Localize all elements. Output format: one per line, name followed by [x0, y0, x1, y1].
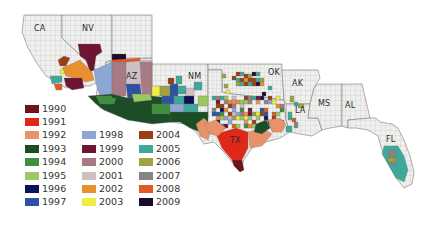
county-region-1996 — [260, 96, 264, 100]
county-region-1992 — [244, 120, 248, 124]
county-region-2006 — [248, 74, 252, 78]
state-label-ak: AK — [292, 79, 304, 88]
county-region-2005 — [212, 96, 216, 100]
legend-swatch — [82, 131, 96, 139]
county-region-1998 — [224, 116, 228, 120]
legend-label: 2007 — [156, 171, 180, 181]
state-label-nv: NV — [82, 24, 94, 33]
legend-label: 2001 — [99, 171, 123, 181]
county-region-2004 — [268, 96, 272, 100]
legend-label: 1991 — [42, 117, 66, 127]
legend-label: 2008 — [156, 184, 180, 194]
county-region-2007 — [212, 108, 216, 112]
state-label-az: AZ — [126, 72, 138, 81]
county-region-2009 — [252, 72, 256, 76]
county-region-1995 — [198, 96, 208, 106]
county-region-2003 — [60, 70, 64, 74]
county-region-2007 — [248, 96, 252, 100]
county-region-2005 — [220, 96, 224, 100]
county-region-1997 — [212, 112, 216, 116]
state-label-nm: NM — [188, 72, 201, 81]
county-region-1998 — [170, 104, 184, 112]
state-label-ms: MS — [318, 99, 330, 108]
county-region-2004 — [236, 72, 240, 76]
legend-item: 2009 — [139, 196, 180, 209]
legend-label: 1993 — [42, 144, 66, 154]
state-label-ca: CA — [34, 24, 46, 33]
county-region-2000 — [232, 104, 236, 108]
county-region-2005 — [240, 82, 244, 86]
county-region-2003 — [276, 96, 280, 100]
county-region-2003 — [226, 90, 230, 94]
county-region-1998 — [228, 120, 232, 124]
county-region-2000 — [112, 62, 126, 96]
county-region-1996 — [220, 108, 224, 112]
legend-swatch — [82, 172, 96, 180]
county-region-2004 — [252, 78, 256, 82]
legend-item: 1997 — [25, 196, 66, 209]
legend-swatch — [82, 158, 96, 166]
county-region-2004 — [168, 78, 174, 84]
legend-label: 2006 — [156, 157, 180, 167]
county-region-2006 — [160, 86, 170, 96]
county-region-2005 — [178, 86, 186, 94]
legend-item: 1992 — [25, 129, 66, 142]
county-region-2004 — [228, 104, 232, 108]
county-region-1995 — [256, 116, 260, 120]
county-region-2004 — [216, 104, 220, 108]
legend-item: 2002 — [82, 182, 123, 195]
county-region-2008 — [272, 112, 276, 116]
legend-swatch — [25, 145, 39, 153]
county-region-1998 — [232, 108, 236, 112]
legend-label: 1990 — [42, 104, 66, 114]
county-region-1997 — [216, 112, 220, 116]
legend-swatch — [139, 158, 153, 166]
county-region-2006 — [260, 78, 264, 82]
legend-swatch — [25, 185, 39, 193]
legend-label: 1997 — [42, 197, 66, 207]
legend-swatch — [139, 185, 153, 193]
legend-label: 2003 — [99, 197, 123, 207]
county-region-1995 — [276, 112, 280, 116]
county-region-2004 — [244, 74, 248, 78]
legend-label: 2000 — [99, 157, 123, 167]
county-region-1992 — [244, 112, 248, 116]
legend-item: 1991 — [25, 115, 66, 128]
county-region-2002 — [276, 104, 280, 108]
county-region-1995 — [240, 116, 244, 120]
county-region-2005 — [240, 72, 244, 76]
county-region-2005 — [174, 96, 184, 104]
county-region-2006 — [224, 84, 228, 88]
legend-item: 1994 — [25, 156, 66, 169]
legend-item: 2008 — [139, 182, 180, 195]
legend-swatch — [25, 172, 39, 180]
legend-swatch — [139, 131, 153, 139]
county-region-2003 — [256, 112, 260, 116]
county-region-2008 — [292, 118, 296, 122]
county-region-2002 — [244, 78, 248, 82]
county-region-2000 — [248, 100, 252, 104]
legend-item: 2000 — [82, 156, 123, 169]
county-region-1997 — [264, 112, 268, 116]
county-region-2001 — [232, 96, 236, 100]
county-region-1994 — [240, 108, 244, 112]
county-region-2002 — [248, 124, 252, 128]
state-label-al: AL — [345, 101, 356, 110]
legend-swatch — [82, 185, 96, 193]
county-region-1995 — [244, 100, 248, 104]
county-region-2004 — [232, 76, 236, 80]
county-region-2005 — [288, 112, 292, 120]
county-region-2005 — [256, 72, 260, 76]
county-region-2002 — [224, 108, 228, 112]
legend-label: 2009 — [156, 197, 180, 207]
county-region-2003 — [272, 100, 276, 104]
legend-swatch — [139, 198, 153, 206]
legend-label: 1992 — [42, 130, 66, 140]
legend-column-1: 1990 1991 1992 1993 1994 1995 1996 1997 — [25, 102, 66, 209]
county-region-2009 — [256, 82, 260, 86]
state-label-fl: FL — [386, 135, 396, 144]
county-region-2000 — [216, 96, 220, 100]
county-region-2006 — [232, 116, 236, 120]
legend-swatch — [25, 105, 39, 113]
county-region-1999 — [248, 112, 252, 116]
